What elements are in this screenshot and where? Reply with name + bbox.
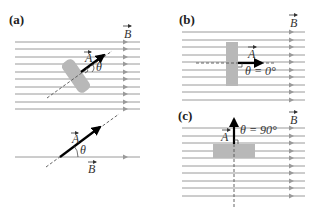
panel-b: (b) B A θ = 0°	[179, 12, 305, 103]
field-b-label: B	[290, 16, 298, 30]
vector-a-label: A	[247, 47, 256, 61]
vector-a-label: A	[220, 130, 229, 144]
panel-a: (a) B	[9, 12, 140, 176]
vector-a-label: A	[84, 51, 93, 65]
field-b-label: B	[290, 113, 298, 127]
panel-c-label: (c)	[178, 108, 192, 123]
panel-b-label: (b)	[179, 12, 195, 27]
field-b-label: B	[124, 27, 132, 41]
panel-b-field-label: B	[289, 15, 298, 30]
panel-c-vector-label: A	[220, 130, 230, 144]
panel-a-field-label: B	[123, 26, 132, 41]
panel-b-vector-label: A	[247, 47, 256, 61]
inset-field-b-label: B	[88, 162, 96, 176]
inset-theta-label: θ	[80, 143, 86, 157]
panel-a-label: (a)	[9, 12, 24, 27]
panel-c-field-label: B	[289, 112, 298, 127]
theta-zero-label: θ = 0°	[245, 64, 276, 78]
theta-ninety-label: θ = 90°	[240, 123, 277, 137]
inset-vector-a-label: A	[71, 132, 80, 146]
inset-angle-arc	[74, 146, 78, 157]
panel-b-surface	[226, 42, 238, 86]
panel-a-inset: A θ B	[15, 114, 140, 176]
panel-b-field-lines	[182, 30, 305, 103]
panel-a-vector-label: A	[84, 51, 93, 65]
flux-diagram: (a) B	[0, 0, 315, 213]
panel-c: (c) B A θ = 90°	[178, 108, 305, 207]
theta-label: θ	[96, 60, 102, 74]
